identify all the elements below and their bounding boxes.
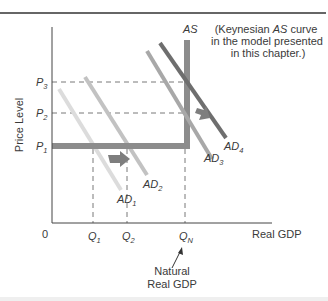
annotation-line3: in this chapter.)	[231, 47, 306, 59]
y-tick-p3: P3	[36, 76, 48, 91]
ad2-label: AD2	[142, 178, 163, 193]
as-curve-horizontal	[52, 143, 190, 149]
y-tick-p2: P2	[36, 107, 48, 122]
ad1-label: AD1	[116, 193, 136, 208]
x-tick-qn: QN	[179, 230, 194, 245]
natural-label-line1: Natural	[154, 265, 189, 277]
as-curve-vertical	[184, 40, 190, 149]
shift-arrow-ad3-ad4	[195, 106, 210, 120]
ad4-label: AD4	[223, 140, 243, 155]
x-tick-q2: Q2	[122, 230, 136, 245]
keynesian-as-ad-diagram: P3 P2 P1 Price Level 0 Q1 Q2 QN Real GDP…	[0, 0, 328, 301]
y-tick-p1: P1	[36, 140, 48, 155]
x-axis-label: Real GDP	[252, 228, 302, 240]
as-label: AS	[182, 23, 198, 35]
origin-label: 0	[42, 228, 48, 240]
ad1-curve	[59, 89, 121, 190]
ad3-label: AD3	[203, 152, 224, 167]
annotation-line1: (Keynesian AS curve	[215, 23, 318, 35]
y-axis-label: Price Level	[13, 98, 25, 152]
natural-label-line2: Real GDP	[147, 278, 197, 290]
x-tick-q1: Q1	[88, 230, 101, 245]
annotation-line2: in the model presented	[211, 35, 323, 47]
bottom-band	[0, 297, 328, 301]
